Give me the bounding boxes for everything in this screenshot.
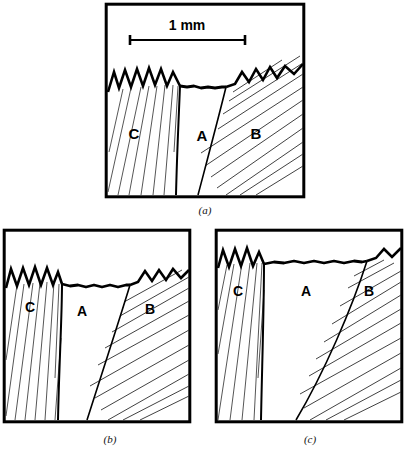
panel-a: 1 mm	[104, 2, 306, 200]
region-label-a: A	[301, 283, 311, 299]
region-label-b: B	[145, 301, 155, 317]
region-label-a: A	[197, 127, 208, 144]
panel-c: C A B	[214, 228, 404, 424]
scale-bar-label: 1 mm	[169, 17, 206, 33]
panel-b: C A B	[2, 228, 192, 424]
region-label-b: B	[251, 125, 262, 142]
region-label-b: B	[364, 283, 374, 299]
panel-b-background	[2, 228, 192, 424]
region-label-a: A	[77, 303, 87, 319]
panel-c-caption: (c)	[280, 434, 340, 445]
region-label-c: C	[129, 125, 140, 142]
region-label-c: C	[233, 283, 243, 299]
panel-a-caption: (a)	[175, 205, 235, 216]
figure-root: 1 mm	[0, 0, 412, 458]
panel-b-caption: (b)	[80, 434, 140, 445]
region-label-c: C	[25, 299, 35, 315]
